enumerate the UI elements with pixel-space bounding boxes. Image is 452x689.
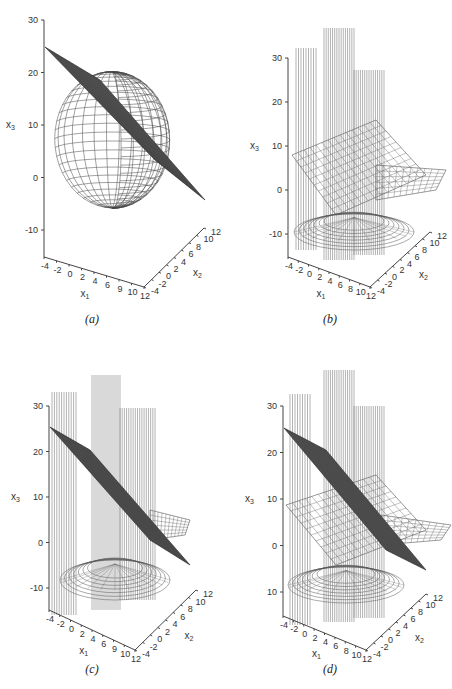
plane-grid (80, 444, 180, 559)
x2-tick (173, 613, 175, 614)
x1-tick-label: 10 (352, 650, 362, 660)
plot-b: 3020100-10x3-4-2024681012x1-4-2024681012… (226, 0, 452, 340)
z-tick-label: 0 (33, 173, 38, 183)
z-tick-label: -10 (25, 225, 38, 235)
panel-d: 302010010x3-4-2024681012x1-4-2024681012x… (226, 340, 452, 689)
plane-grid (84, 71, 190, 189)
x2-tick (159, 272, 161, 273)
z-tick-label: 10 (33, 492, 43, 502)
x2-tick-label: 12 (203, 589, 213, 599)
plane-grid (53, 52, 162, 166)
x1-tick-label: -4 (46, 614, 54, 624)
plane-grid (49, 49, 159, 163)
x1-tick-label: 4 (90, 634, 95, 644)
x2-tick-label: 0 (392, 272, 397, 282)
plane-grid (55, 430, 155, 543)
x2-tick-label: 4 (407, 259, 412, 269)
x1-axis-label: x1 (312, 648, 321, 660)
plane-grid (78, 443, 178, 557)
x2-tick (143, 643, 145, 644)
z-axis-label: x3 (250, 140, 259, 152)
x2-tick-label: 12 (211, 227, 221, 237)
sheet-grid (298, 153, 342, 213)
x1-tick-label: 0 (307, 269, 312, 279)
z-tick-label: 0 (272, 541, 277, 551)
x1-tick-label: -4 (41, 261, 49, 271)
x1-tick-label: 12 (131, 654, 141, 664)
z-tick-label: -10 (30, 583, 43, 593)
x2-tick-label: 0 (157, 634, 162, 644)
x1-tick-label: 0 (302, 629, 307, 639)
z-axis-label: x3 (6, 119, 15, 131)
x2-tick (396, 622, 398, 623)
x2-tick (385, 273, 387, 274)
plot-a: 3020100-10x3-4-2024691012x1-4-2024681012… (0, 0, 226, 340)
x2-axis-label: x2 (415, 632, 424, 644)
plane-grid (96, 78, 201, 197)
z-tick-label: 30 (33, 401, 43, 411)
x2-tick (389, 629, 391, 630)
x2-tick (408, 253, 410, 254)
x2-axis-label: x2 (193, 267, 202, 279)
z-tick-label: -10 (269, 229, 282, 239)
mesh-line (57, 115, 168, 130)
mesh-line (62, 167, 162, 181)
x1-tick-label: 10 (120, 649, 130, 659)
x1-tick-label: 10 (356, 287, 366, 297)
x2-tick (174, 258, 176, 259)
x1-tick-label: 4 (327, 276, 332, 286)
z-tick-label: 20 (267, 448, 277, 458)
x1-tick-label: -4 (285, 261, 293, 271)
x2-tick (393, 266, 395, 267)
x2-tick-label: 6 (411, 614, 416, 624)
x1-tick-label: 6 (105, 280, 110, 290)
z-tick-label: 20 (28, 68, 38, 78)
x2-tick-label: 2 (174, 264, 179, 274)
x1-tick-label: 9 (117, 284, 122, 294)
x2-tick (400, 260, 402, 261)
x2-tick-label: 8 (188, 604, 193, 614)
caption-d: (d) (300, 662, 360, 677)
plane-grid (73, 64, 181, 181)
x2-tick (204, 228, 206, 229)
x1-tick-label: 4 (323, 637, 328, 647)
x2-tick-label: 4 (181, 257, 186, 267)
x1-tick-label: 12 (366, 291, 376, 301)
x2-axis-label: x2 (184, 630, 193, 642)
x2-tick (166, 620, 168, 621)
x1-tick-label: 4 (92, 276, 97, 286)
x2-tick (378, 280, 380, 281)
plane-grid (318, 446, 418, 566)
x1-tick-label: 6 (338, 280, 343, 290)
x2-tick (374, 643, 376, 644)
x1-tick-label: -2 (295, 265, 303, 275)
x1-axis-label: x1 (79, 645, 88, 657)
x1-tick-label: 6 (101, 639, 106, 649)
x1-tick-label: 0 (67, 269, 72, 279)
x2-tick-label: 6 (180, 612, 185, 622)
x2-tick (188, 598, 190, 599)
x1-tick-label: 2 (80, 629, 85, 639)
x2-tick (423, 239, 425, 240)
panel-a: 3020100-10x3-4-2024691012x1-4-2024681012… (0, 0, 226, 340)
x1-tick-label: -2 (53, 265, 61, 275)
x2-tick (411, 608, 413, 609)
caption-b: (b) (300, 312, 360, 327)
x2-tick-label: 12 (437, 231, 447, 241)
x1-tick-label: -2 (57, 619, 65, 629)
mesh-line (112, 72, 119, 209)
plane-grid (58, 431, 158, 544)
mesh-line (77, 189, 147, 199)
x2-tick-label: 8 (196, 242, 201, 252)
plane-grid (83, 446, 183, 561)
z-tick-label: 0 (277, 185, 282, 195)
x2-tick-label: 2 (400, 265, 405, 275)
plane-grid (76, 66, 183, 183)
z-tick-label: 10 (267, 587, 277, 597)
x1-tick-label: 10 (127, 287, 137, 297)
z-tick-label: 10 (267, 494, 277, 504)
x1-tick-label: 8 (344, 646, 349, 656)
z-tick-label: 30 (267, 401, 277, 411)
x2-tick (381, 636, 383, 637)
panel-c: 3020100-10x3-4-2024691012x1-4-2024681012… (0, 340, 226, 689)
